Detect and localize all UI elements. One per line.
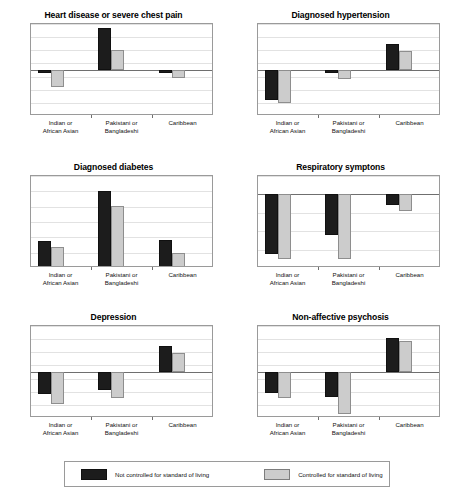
bar-not-controlled	[159, 70, 172, 73]
x-tick-label-line: Indian or	[43, 119, 79, 127]
bar-not-controlled	[159, 240, 172, 267]
x-tick-label: Caribbean	[395, 271, 423, 279]
x-tick-label-line: Pakistani or	[332, 271, 366, 279]
x-tick-label: Indian orAfrican Asian	[270, 271, 306, 287]
bar-controlled	[338, 70, 351, 79]
bar-group	[91, 24, 151, 114]
x-tick-label-line: Pakistani or	[332, 119, 366, 127]
panel-title: Heart disease or severe chest pain	[0, 0, 227, 23]
plot-area-wrapper: -0.7-0.5-0.3-0.10.10.30.50.7	[257, 325, 440, 417]
x-tick-mark	[318, 417, 319, 420]
x-tick-label-line: African Asian	[270, 127, 306, 135]
bar-controlled	[278, 194, 291, 258]
bar-controlled	[51, 247, 64, 267]
legend-item-controlled: Controlled for standard of living	[264, 462, 382, 486]
plot-area-wrapper: -0.7-0.5-0.3-0.10.10.30.50.7	[257, 23, 440, 115]
panel-title: Depression	[0, 302, 227, 325]
bar-not-controlled	[265, 194, 278, 254]
x-tick-mark	[379, 115, 380, 118]
panel-diabetes: Diagnosed diabetes 0.60.81.01.21.41.61.8…	[0, 152, 227, 302]
plot-area: -0.7-0.5-0.3-0.10.10.30.50.7	[30, 325, 213, 417]
bar-not-controlled	[98, 28, 111, 70]
bar-group	[152, 24, 212, 114]
bar-group	[31, 24, 91, 114]
bar-not-controlled	[325, 70, 338, 73]
x-tick-label: Pakistani orBangladeshi	[332, 119, 366, 135]
bar-controlled	[399, 51, 412, 70]
bar-container	[258, 24, 439, 114]
bar-group	[258, 326, 318, 416]
legend-label-not-controlled: Not controlled for standard of living	[115, 471, 209, 478]
x-tick-label-line: Pakistani or	[105, 271, 139, 279]
x-tick-label-line: Bangladeshi	[105, 279, 139, 287]
x-axis: Indian orAfrican AsianPakistani orBangla…	[30, 115, 213, 149]
plot-area: -0.8-0.6-0.4-0.20.00.2	[257, 175, 440, 267]
plot-area: -0.7-0.5-0.3-0.10.10.30.50.7	[30, 23, 213, 115]
bar-not-controlled	[386, 44, 399, 70]
bar-container	[258, 176, 439, 266]
panel-title: Diagnosed hypertension	[227, 0, 454, 23]
bar-not-controlled	[98, 372, 111, 390]
x-tick-mark	[152, 267, 153, 270]
x-tick-label-line: African Asian	[270, 429, 306, 437]
bar-group	[379, 176, 439, 266]
bar-group	[152, 176, 212, 266]
x-tick-label: Caribbean	[168, 271, 196, 279]
x-tick-label-line: Indian or	[43, 271, 79, 279]
plot-area-wrapper: -0.8-0.6-0.4-0.20.00.2	[257, 175, 440, 267]
bar-not-controlled	[265, 372, 278, 393]
x-tick-mark	[152, 417, 153, 420]
x-tick-label: Pakistani orBangladeshi	[105, 119, 139, 135]
bar-container	[31, 24, 212, 114]
x-axis: Indian orAfrican AsianPakistani orBangla…	[30, 267, 213, 301]
x-tick-label-line: Pakistani or	[105, 119, 139, 127]
x-tick-label: Caribbean	[395, 421, 423, 429]
x-tick-label-line: Caribbean	[168, 119, 196, 127]
bar-controlled	[172, 70, 185, 78]
bar-not-controlled	[386, 338, 399, 372]
x-tick-label: Caribbean	[395, 119, 423, 127]
x-tick-label: Pakistani orBangladeshi	[105, 421, 139, 437]
x-tick-mark	[379, 267, 380, 270]
x-tick-label-line: Indian or	[270, 119, 306, 127]
bar-container	[258, 326, 439, 416]
panel-depression: Depression -0.7-0.5-0.3-0.10.10.30.50.7 …	[0, 302, 227, 454]
bar-not-controlled	[38, 372, 51, 394]
panel-hypertension: Diagnosed hypertension -0.7-0.5-0.3-0.10…	[227, 0, 454, 152]
x-tick-mark	[91, 267, 92, 270]
x-axis: Indian orAfrican AsianPakistani orBangla…	[30, 417, 213, 451]
x-tick-label-line: Indian or	[43, 421, 79, 429]
plot-area: 0.60.81.01.21.41.61.8	[30, 175, 213, 267]
legend-label-controlled: Controlled for standard of living	[298, 471, 382, 478]
x-tick-label-line: Indian or	[270, 271, 306, 279]
bar-not-controlled	[386, 194, 399, 204]
legend-item-not-controlled: Not controlled for standard of living	[81, 462, 209, 486]
bar-controlled	[399, 194, 412, 211]
bar-controlled	[51, 372, 64, 404]
bar-not-controlled	[325, 372, 338, 397]
bar-controlled	[172, 253, 185, 267]
bar-controlled	[111, 372, 124, 398]
x-tick-label-line: African Asian	[43, 279, 79, 287]
x-tick-mark	[91, 417, 92, 420]
bar-not-controlled	[38, 70, 51, 73]
legend-swatch-light-icon	[264, 469, 290, 480]
x-tick-label-line: Pakistani or	[332, 421, 366, 429]
x-axis: Indian orAfrican AsianPakistani orBangla…	[257, 115, 440, 149]
bar-group	[152, 326, 212, 416]
x-tick-label-line: Bangladeshi	[105, 127, 139, 135]
panel-title: Respiratory symptons	[227, 152, 454, 175]
bar-group	[318, 24, 378, 114]
bar-container	[31, 326, 212, 416]
x-tick-label: Indian orAfrican Asian	[270, 119, 306, 135]
panel-title: Diagnosed diabetes	[0, 152, 227, 175]
x-tick-label-line: Pakistani or	[105, 421, 139, 429]
x-tick-label-line: Caribbean	[168, 271, 196, 279]
bar-controlled	[338, 372, 351, 414]
x-tick-label-line: African Asian	[270, 279, 306, 287]
bar-not-controlled	[325, 194, 338, 234]
bar-group	[318, 176, 378, 266]
bar-group	[318, 326, 378, 416]
x-tick-label: Caribbean	[168, 119, 196, 127]
x-tick-mark	[379, 417, 380, 420]
